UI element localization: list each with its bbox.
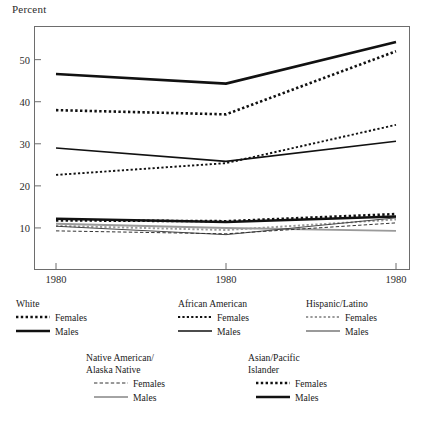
legend-group-african: African AmericanFemalesMales (178, 298, 249, 338)
legend-group-hispanic: Hispanic/LatinoFemalesMales (306, 298, 377, 338)
legend-swatch-icon (94, 391, 128, 403)
legend-label: Females (217, 312, 249, 323)
series-line (56, 125, 396, 175)
legend-swatch-icon (306, 311, 340, 323)
legend-label: Females (133, 378, 165, 389)
plot-area (34, 26, 410, 270)
legend-entry: Females (256, 376, 327, 390)
legend-swatch-icon (178, 311, 212, 323)
legend-swatch-icon (178, 325, 212, 337)
legend-label: Females (55, 312, 87, 323)
legend-label: Females (295, 378, 327, 389)
legend-label: Males (133, 392, 156, 403)
legend-heading: Hispanic/Latino (306, 298, 377, 309)
y-axis-title: Percent (12, 3, 46, 15)
legend-entry: Males (94, 390, 165, 404)
legend-entry: Females (16, 310, 87, 324)
legend-entry: Females (178, 310, 249, 324)
y-tick-label: 30 (8, 138, 30, 149)
x-tick-label: 1980 (216, 274, 237, 285)
legend-group-white: WhiteFemalesMales (16, 298, 87, 338)
legend-entry: Males (306, 324, 377, 338)
legend-heading: Native American/ (86, 352, 165, 363)
legend-label: Females (345, 312, 377, 323)
legend-label: Males (217, 326, 240, 337)
legend-swatch-icon (256, 391, 290, 403)
chart-legend: WhiteFemalesMalesAfrican AmericanFemales… (0, 296, 432, 421)
x-tick-label: 1980 (46, 274, 67, 285)
legend-heading: Islander (248, 364, 327, 375)
y-tick-label: 20 (8, 180, 30, 191)
legend-label: Males (345, 326, 368, 337)
x-axis-tick-labels: 198019801980 (34, 274, 410, 290)
legend-heading: Alaska Native (86, 364, 165, 375)
legend-swatch-icon (306, 325, 340, 337)
legend-label: Males (295, 392, 318, 403)
legend-entry: Females (94, 376, 165, 390)
legend-entry: Males (256, 390, 327, 404)
series-line (56, 217, 396, 222)
y-tick-label: 10 (8, 222, 30, 233)
y-tick-label: 50 (8, 54, 30, 65)
legend-entry: Females (306, 310, 377, 324)
y-axis-tick-labels: 1020304050 (4, 26, 30, 270)
legend-label: Males (55, 326, 78, 337)
series-line (56, 224, 396, 231)
legend-swatch-icon (16, 311, 50, 323)
y-tick-label: 40 (8, 96, 30, 107)
x-tick-label: 1980 (386, 274, 407, 285)
chart-figure: Percent 1020304050 198019801980 WhiteFem… (0, 0, 432, 421)
legend-entry: Males (178, 324, 249, 338)
legend-group-native: Native American/Alaska NativeFemalesMale… (86, 352, 165, 404)
legend-swatch-icon (256, 377, 290, 389)
legend-heading: White (16, 298, 87, 309)
legend-swatch-icon (16, 325, 50, 337)
legend-heading: African American (178, 298, 249, 309)
legend-swatch-icon (94, 377, 128, 389)
legend-heading: Asian/Pacific (248, 352, 327, 363)
legend-entry: Males (16, 324, 87, 338)
legend-group-asian: Asian/PacificIslanderFemalesMales (248, 352, 327, 404)
series-line (56, 141, 396, 161)
plot-lines (34, 26, 410, 270)
series-line (56, 42, 396, 84)
